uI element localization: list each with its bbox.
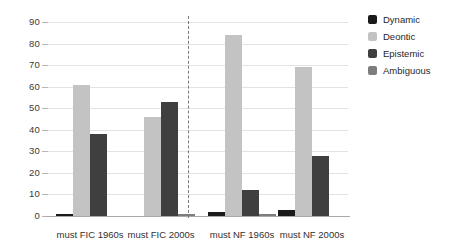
bar <box>56 214 73 216</box>
legend-swatch-ambiguous <box>368 66 377 75</box>
y-axis-tick-label: 90 <box>29 17 40 27</box>
bar <box>295 67 312 216</box>
bar <box>90 134 107 216</box>
legend-label-dynamic: Dynamic <box>383 15 420 25</box>
legend-swatch-deontic <box>368 32 377 41</box>
bar <box>312 156 329 216</box>
bar <box>73 85 90 216</box>
y-axis-tick-label-wrap: 20 <box>8 168 40 178</box>
bar <box>259 214 276 216</box>
bar <box>178 214 195 216</box>
y-axis-tick-label-wrap: 30 <box>8 146 40 156</box>
legend-swatch-epistemic <box>368 49 377 58</box>
gridline <box>48 22 348 23</box>
y-axis-tick-label: 80 <box>29 39 40 49</box>
y-axis-tick <box>42 194 48 195</box>
legend-label-ambiguous: Ambiguous <box>383 66 431 76</box>
y-axis-tick-label-wrap: 10 <box>8 189 40 199</box>
y-axis-tick <box>42 151 48 152</box>
y-axis-tick-label-wrap: 40 <box>8 125 40 135</box>
legend-item[interactable]: Ambiguous <box>368 63 454 78</box>
y-axis-tick-label-wrap: 0 <box>8 211 40 221</box>
bar <box>278 210 295 216</box>
bar-chart: 0102030405060708090 must FIC 1960smust F… <box>0 0 456 251</box>
y-axis-tick <box>42 87 48 88</box>
y-axis-tick-label-wrap: 50 <box>8 103 40 113</box>
y-axis-tick-label: 10 <box>29 189 40 199</box>
y-axis-tick-label: 20 <box>29 168 40 178</box>
y-axis-tick-label-wrap: 80 <box>8 39 40 49</box>
y-axis-tick <box>42 22 48 23</box>
bar <box>144 117 161 216</box>
y-axis-tick-label: 0 <box>35 211 40 221</box>
legend: Dynamic Deontic Epistemic Ambiguous <box>368 12 454 80</box>
gridline <box>48 44 348 45</box>
y-axis-tick <box>42 173 48 174</box>
section-divider-line <box>188 16 189 218</box>
y-axis-tick <box>42 130 48 131</box>
legend-item[interactable]: Epistemic <box>368 46 454 61</box>
gridline <box>48 65 348 66</box>
x-axis-tick-label: must NF 2000s <box>262 230 362 240</box>
bar <box>242 190 259 216</box>
legend-label-deontic: Deontic <box>383 32 415 42</box>
x-axis-line <box>46 216 350 217</box>
y-axis-tick-label: 40 <box>29 125 40 135</box>
y-axis-tick-label-wrap: 90 <box>8 17 40 27</box>
y-axis-tick-label-wrap: 60 <box>8 82 40 92</box>
y-axis-tick-label-wrap: 70 <box>8 60 40 70</box>
legend-swatch-dynamic <box>368 15 377 24</box>
bar <box>208 212 225 216</box>
y-axis-tick-label: 60 <box>29 82 40 92</box>
legend-item[interactable]: Dynamic <box>368 12 454 27</box>
bar <box>225 35 242 216</box>
bar <box>161 102 178 216</box>
legend-item[interactable]: Deontic <box>368 29 454 44</box>
y-axis-tick-label: 50 <box>29 103 40 113</box>
y-axis-tick-label: 70 <box>29 60 40 70</box>
y-axis-tick-label: 30 <box>29 146 40 156</box>
y-axis-tick <box>42 108 48 109</box>
y-axis-tick <box>42 44 48 45</box>
y-axis-tick <box>42 65 48 66</box>
legend-label-epistemic: Epistemic <box>383 49 424 59</box>
